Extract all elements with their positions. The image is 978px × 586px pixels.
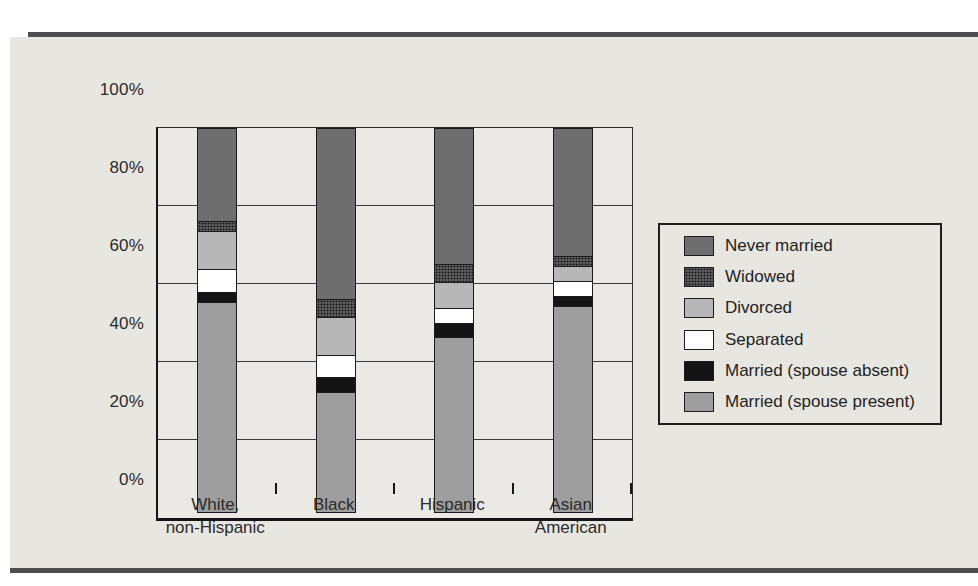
legend-box: Never marriedWidowedDivorcedSeparatedMar… (658, 223, 942, 425)
legend-swatch-married-spouse-absent (684, 361, 714, 381)
bar-segment-widowed (316, 299, 356, 319)
bar-segment-widowed (434, 264, 474, 284)
y-tick-label-60: 60% (74, 235, 144, 257)
legend-swatch-never-married (684, 236, 714, 256)
legend-swatch-widowed (684, 267, 714, 287)
bar-segment-separated (434, 308, 474, 324)
y-tick-label-40: 40% (74, 313, 144, 335)
legend-swatch-divorced (684, 298, 714, 318)
legend-label-divorced: Divorced (725, 298, 792, 318)
x-axis-tick-2 (393, 483, 395, 494)
y-tick-label-20: 20% (74, 391, 144, 413)
legend-item-never-married: Never married (684, 236, 932, 256)
y-tick-label-0: 0% (74, 469, 144, 491)
legend-swatch-separated (684, 330, 714, 350)
bar-segment-never-married (434, 128, 474, 265)
bar-segment-married-spouse-present (434, 337, 474, 513)
legend-label-never-married: Never married (725, 236, 833, 256)
bar-asian (553, 128, 593, 518)
bar-segment-separated (197, 269, 237, 292)
bar-segment-divorced (553, 266, 593, 282)
legend-swatch-married-spouse-present (684, 392, 714, 412)
bar-segment-married-spouse-present (553, 306, 593, 513)
figure-panel: 0%20%40%60%80%100% White, non-HispanicBl… (10, 37, 978, 568)
bar-hispanic (434, 128, 474, 518)
category-label-3: Asian American (496, 494, 646, 540)
legend-label-married-spouse-absent: Married (spouse absent) (725, 361, 909, 381)
bar-segment-divorced (197, 231, 237, 270)
legend-item-widowed: Widowed (684, 267, 932, 287)
legend-label-separated: Separated (725, 330, 803, 350)
plot-area (156, 127, 633, 521)
bar-segment-separated (553, 281, 593, 297)
bar-segment-never-married (316, 128, 356, 300)
bar-segment-married-spouse-absent (316, 377, 356, 393)
legend-item-separated: Separated (684, 330, 932, 350)
x-axis-tick-1 (275, 483, 277, 494)
bar-segment-separated (316, 355, 356, 378)
bar-black (316, 128, 356, 518)
bar-segment-divorced (316, 317, 356, 356)
legend-label-widowed: Widowed (725, 267, 795, 287)
legend-item-married-spouse-present: Married (spouse present) (684, 392, 932, 412)
y-tick-label-80: 80% (74, 157, 144, 179)
y-tick-label-100: 100% (74, 79, 144, 101)
page-bottom-rule (10, 568, 978, 573)
x-axis-tick-3 (512, 483, 514, 494)
bar-segment-never-married (553, 128, 593, 257)
bar-segment-married-spouse-present (197, 302, 237, 513)
bar-segment-divorced (434, 282, 474, 309)
bar-segment-never-married (197, 128, 237, 222)
legend-label-married-spouse-present: Married (spouse present) (725, 392, 915, 412)
legend-item-divorced: Divorced (684, 298, 932, 318)
legend-item-married-spouse-absent: Married (spouse absent) (684, 361, 932, 381)
bar-white (197, 128, 237, 518)
x-axis-tick-4 (630, 483, 632, 494)
bar-segment-married-spouse-absent (434, 323, 474, 339)
